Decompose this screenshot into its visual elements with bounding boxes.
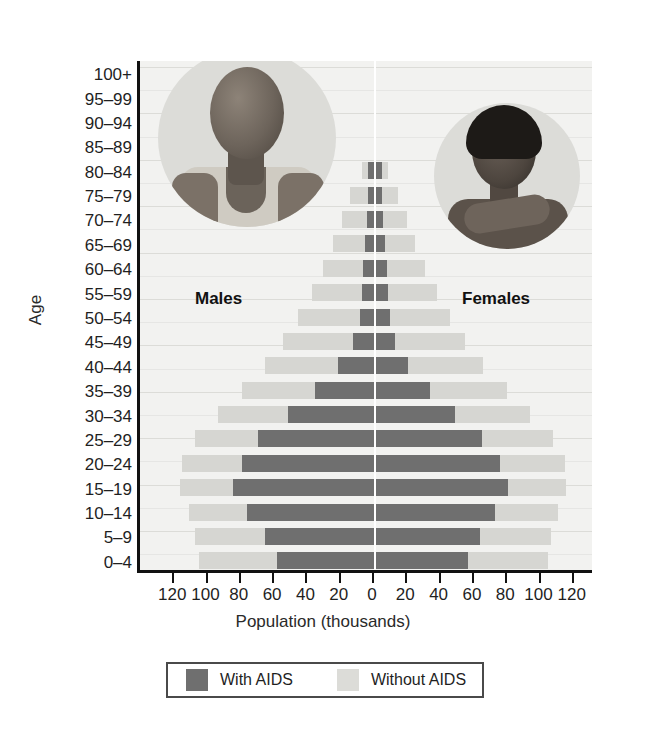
legend-swatch-with-aids	[186, 669, 208, 691]
x-axis-tick	[405, 573, 407, 583]
pyramid-row	[140, 357, 592, 374]
pyramid-row	[140, 333, 592, 350]
pyramid-row	[140, 455, 592, 472]
pyramid-row	[140, 65, 592, 82]
x-axis-tick	[272, 573, 274, 583]
y-axis-tick-50-54: 50–54	[56, 312, 132, 326]
bar-male-with-aids	[277, 552, 375, 569]
y-axis-tick-45-49: 45–49	[56, 336, 132, 350]
x-axis-tick	[472, 573, 474, 583]
y-axis-tick-65-69: 65–69	[56, 239, 132, 253]
bar-male-with-aids	[360, 309, 375, 326]
bar-female-with-aids	[375, 455, 500, 472]
bar-female-with-aids	[375, 528, 480, 545]
bar-male-with-aids	[233, 479, 375, 496]
x-axis-tick	[505, 573, 507, 583]
y-axis-tick-10-14: 10–14	[56, 507, 132, 521]
y-axis-tick-60-64: 60–64	[56, 263, 132, 277]
y-axis-tick-80-84: 80–84	[56, 166, 132, 180]
paper-texture-line	[140, 253, 592, 254]
bar-male-with-aids	[338, 357, 375, 374]
chart-plot-inner: Males Females	[140, 61, 592, 570]
legend-label-without-aids: Without AIDS	[371, 671, 466, 689]
y-axis-tick-25-29: 25–29	[56, 434, 132, 448]
x-axis-tick	[305, 573, 307, 583]
pyramid-row	[140, 528, 592, 545]
bar-female-with-aids	[375, 357, 408, 374]
bar-female-with-aids	[375, 211, 383, 228]
pyramid-row	[140, 89, 592, 106]
y-axis-tick-5-9: 5–9	[56, 531, 132, 545]
bar-male-with-aids	[258, 430, 375, 447]
bar-female-with-aids	[375, 430, 482, 447]
x-axis-tick	[439, 573, 441, 583]
y-axis-tick-55-59: 55–59	[56, 288, 132, 302]
legend-item-without-aids: Without AIDS	[337, 669, 466, 691]
pyramid-row	[140, 260, 592, 277]
y-axis-tick-0-4: 0–4	[56, 556, 132, 570]
bar-male-with-aids	[315, 382, 375, 399]
bar-male-with-aids	[288, 406, 375, 423]
x-axis-title: Population (thousands)	[0, 612, 646, 632]
y-axis-tick-85-89: 85–89	[56, 141, 132, 155]
females-side-label: Females	[462, 289, 530, 309]
x-axis-tick	[172, 573, 174, 583]
legend-item-with-aids: With AIDS	[186, 669, 293, 691]
y-axis-tick-95-99: 95–99	[56, 93, 132, 107]
legend-swatch-without-aids	[337, 669, 359, 691]
bar-male-with-aids	[265, 528, 375, 545]
y-axis-tick-labels: 0–45–910–1415–1920–2425–2930–3435–3940–4…	[56, 62, 132, 570]
pyramid-row	[140, 504, 592, 521]
x-axis-tick	[372, 573, 374, 583]
bar-female-with-aids	[375, 406, 455, 423]
y-axis-tick-90-94: 90–94	[56, 117, 132, 131]
bar-male-with-aids	[242, 455, 375, 472]
pyramid-row	[140, 138, 592, 155]
pyramid-row	[140, 430, 592, 447]
pyramid-row	[140, 211, 592, 228]
y-axis-tick-35-39: 35–39	[56, 385, 132, 399]
bar-male-with-aids	[247, 504, 375, 521]
y-axis-tick-100+: 100+	[56, 68, 132, 82]
bar-female-with-aids	[375, 479, 508, 496]
pyramid-row	[140, 162, 592, 179]
bar-female-with-aids	[375, 382, 430, 399]
pyramid-row	[140, 309, 592, 326]
chart-plot-area: Males Females	[137, 61, 592, 573]
chart-legend: With AIDS Without AIDS	[166, 662, 484, 698]
x-axis-tick-label: 120	[552, 585, 592, 605]
center-axis-line	[374, 61, 376, 570]
x-axis-tick	[572, 573, 574, 583]
bar-female-with-aids	[375, 309, 390, 326]
x-axis-tick	[206, 573, 208, 583]
x-axis-tick	[339, 573, 341, 583]
pyramid-row	[140, 187, 592, 204]
bar-male-with-aids	[353, 333, 375, 350]
bar-female-with-aids	[375, 235, 385, 252]
legend-label-with-aids: With AIDS	[220, 671, 293, 689]
y-axis-tick-15-19: 15–19	[56, 483, 132, 497]
pyramid-row	[140, 552, 592, 569]
bar-female-with-aids	[375, 552, 468, 569]
y-axis-tick-30-34: 30–34	[56, 410, 132, 424]
x-axis-ticks	[137, 573, 595, 583]
bar-female-with-aids	[375, 284, 388, 301]
males-side-label: Males	[195, 289, 242, 309]
pyramid-row	[140, 479, 592, 496]
x-axis-tick	[539, 573, 541, 583]
bar-female-with-aids	[375, 504, 495, 521]
y-axis-title: Age	[26, 280, 46, 340]
y-axis-tick-40-44: 40–44	[56, 361, 132, 375]
x-axis-tick	[239, 573, 241, 583]
y-axis-tick-70-74: 70–74	[56, 214, 132, 228]
pyramid-row	[140, 113, 592, 130]
bar-male-with-aids	[362, 284, 375, 301]
pyramid-row	[140, 382, 592, 399]
bar-female-with-aids	[375, 260, 387, 277]
y-axis-tick-75-79: 75–79	[56, 190, 132, 204]
x-axis-tick-labels: 12010080604020020406080100120	[100, 585, 630, 609]
pyramid-row	[140, 406, 592, 423]
pyramid-row	[140, 235, 592, 252]
bar-female-with-aids	[375, 333, 395, 350]
y-axis-tick-20-24: 20–24	[56, 458, 132, 472]
